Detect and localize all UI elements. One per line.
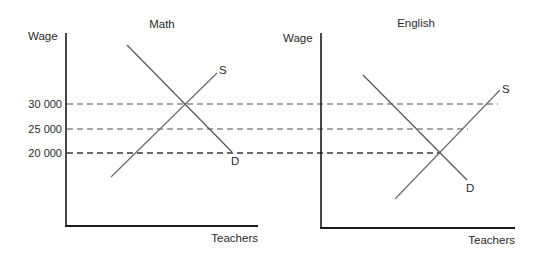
math-supply-curve [111,73,217,177]
math-supply-label: S [219,64,227,76]
y-tick-20000: 20 000 [28,147,62,159]
math-y-axis-label: Wage [28,30,58,42]
math-demand-label: D [231,155,239,167]
wage-supply-demand-chart: Math Wage Teachers 30 000 25 000 20 000 … [0,0,534,255]
math-title: Math [149,18,175,30]
math-x-axis-label: Teachers [211,232,258,244]
english-supply-label: S [502,83,510,95]
english-demand-curve [363,75,467,180]
math-demand-curve [127,45,232,152]
y-tick-25000: 25 000 [28,123,62,135]
english-y-axis-label: Wage [283,32,313,44]
english-supply-curve [395,90,500,199]
english-demand-label: D [466,182,474,194]
y-tick-30000: 30 000 [28,98,62,110]
english-x-axis-label: Teachers [468,234,515,246]
english-panel: English Wage Teachers D S [283,17,515,246]
math-panel: Math Wage Teachers 30 000 25 000 20 000 … [28,18,258,244]
english-title: English [397,17,435,29]
